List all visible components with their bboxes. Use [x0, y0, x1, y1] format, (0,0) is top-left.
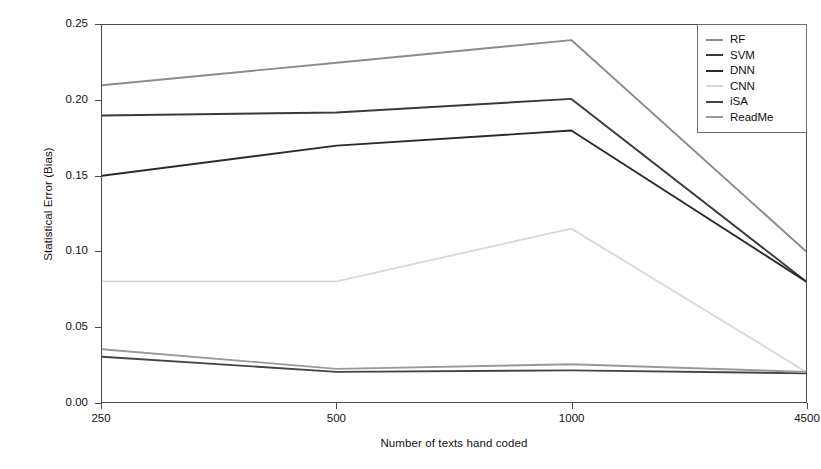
x-tick-mark [807, 403, 808, 409]
x-tick-mark [101, 403, 102, 409]
statistical-error-line-chart: Statistical Error (Bias) 0.000.050.100.1… [0, 0, 821, 469]
legend-label: DNN [730, 63, 755, 79]
legend-label: SVM [730, 48, 755, 64]
legend-item-rf[interactable]: RF [706, 32, 800, 48]
legend-item-dnn[interactable]: DNN [706, 63, 800, 79]
legend-label: ReadMe [730, 110, 773, 126]
x-tick-label: 4500 [794, 412, 820, 424]
legend-label: iSA [730, 94, 748, 110]
x-tick-mark [336, 403, 337, 409]
legend: RFSVMDNNCNNiSAReadMe [697, 24, 807, 133]
legend-swatch-icon [706, 54, 723, 56]
x-tick-label: 250 [91, 412, 110, 424]
legend-label: RF [730, 32, 745, 48]
legend-item-readme[interactable]: ReadMe [706, 110, 800, 126]
legend-item-isa[interactable]: iSA [706, 94, 800, 110]
legend-item-svm[interactable]: SVM [706, 48, 800, 64]
legend-label: CNN [730, 79, 755, 95]
legend-swatch-icon [706, 39, 723, 41]
legend-swatch-icon [706, 70, 723, 72]
legend-swatch-icon [706, 85, 723, 87]
legend-swatch-icon [706, 101, 723, 103]
legend-swatch-icon [706, 116, 723, 118]
x-tick-mark [572, 403, 573, 409]
x-tick-label: 1000 [559, 412, 585, 424]
x-tick-label: 500 [327, 412, 346, 424]
legend-item-cnn[interactable]: CNN [706, 79, 800, 95]
x-axis-title: Number of texts hand coded [101, 437, 807, 449]
